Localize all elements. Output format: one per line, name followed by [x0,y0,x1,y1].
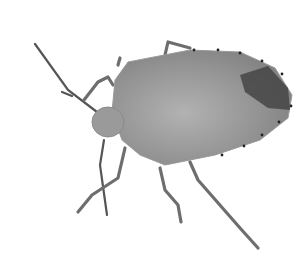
photo [0,0,298,275]
head [92,107,124,137]
stink-bug-illustration [0,0,298,275]
